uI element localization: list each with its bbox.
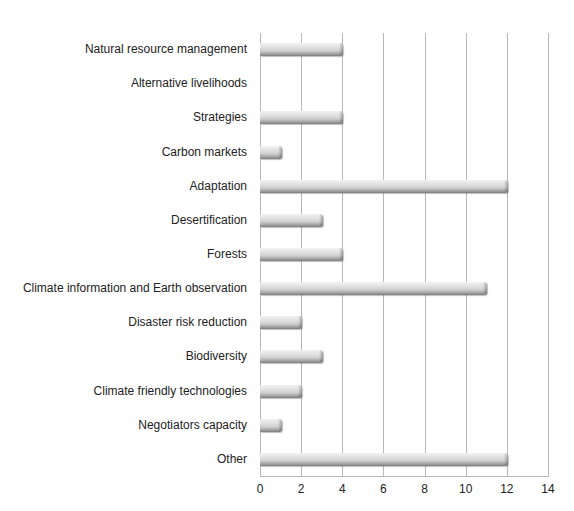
bar [260, 111, 343, 124]
x-tick-label: 2 [286, 482, 316, 496]
gridline [548, 33, 549, 477]
bar [260, 248, 343, 261]
category-label: Climate information and Earth observatio… [23, 281, 247, 295]
category-label: Forests [207, 247, 247, 261]
gridline [383, 33, 384, 477]
gridline [425, 33, 426, 477]
category-label: Other [217, 452, 247, 466]
bar [260, 316, 302, 329]
x-tick-label: 0 [245, 482, 275, 496]
bar [260, 146, 282, 159]
x-tick-label: 4 [327, 482, 357, 496]
category-label: Biodiversity [186, 349, 247, 363]
x-tick-label: 12 [492, 482, 522, 496]
bar [260, 282, 487, 295]
category-label: Carbon markets [162, 145, 247, 159]
plot-area [260, 33, 548, 477]
x-tick-label: 10 [451, 482, 481, 496]
x-axis-line [260, 476, 548, 477]
category-label: Alternative livelihoods [131, 76, 247, 90]
category-label: Climate friendly technologies [94, 384, 247, 398]
category-label: Adaptation [190, 179, 247, 193]
x-tick-label: 6 [368, 482, 398, 496]
bar [260, 419, 282, 432]
bar [260, 453, 508, 466]
bar [260, 43, 343, 56]
x-tick-label: 14 [533, 482, 563, 496]
bar [260, 214, 323, 227]
category-label: Strategies [193, 110, 247, 124]
category-label: Negotiators capacity [138, 418, 247, 432]
category-label: Natural resource management [85, 42, 247, 56]
category-label: Desertification [171, 213, 247, 227]
bar [260, 180, 508, 193]
category-label: Disaster risk reduction [128, 315, 247, 329]
bar [260, 385, 302, 398]
gridline [507, 33, 508, 477]
bar [260, 350, 323, 363]
x-tick-label: 8 [410, 482, 440, 496]
gridline [466, 33, 467, 477]
